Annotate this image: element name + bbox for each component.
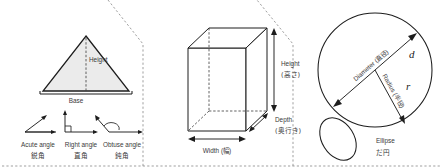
geometry-terms-figure: Height Base Acute angle 鋭角 Right angle 直… [0, 0, 444, 168]
radius-symbol: r [406, 80, 411, 92]
cuboid-depth-label-en: Depth [275, 116, 292, 124]
cuboid-figure [188, 28, 267, 131]
cuboid-width-dimension [188, 136, 246, 142]
right-angle-label-en: Right angle [65, 141, 98, 149]
triangle-figure [40, 36, 132, 94]
acute-angle-icon [25, 115, 56, 134]
cuboid-width-label: Width (幅) [203, 146, 231, 155]
diameter-symbol: d [409, 48, 415, 60]
obtuse-angle-label-en: Obtuse angle [103, 141, 141, 149]
ellipse-figure [312, 111, 364, 167]
right-angle-icon [63, 110, 98, 134]
ellipse-label-en: Ellipse [376, 137, 395, 145]
obtuse-angle-icon [95, 115, 143, 134]
acute-angle-label-jp: 鋭角 [31, 151, 45, 160]
cuboid-height-label-en: Height [281, 60, 300, 68]
triangle-height-label: Height [89, 56, 108, 64]
cuboid-depth-label-jp: (奥行き) [275, 126, 301, 135]
cuboid-height-label-jp: (高さ) [281, 70, 300, 79]
acute-angle-label-en: Acute angle [21, 141, 55, 149]
ellipse-label-jp: だ円 [376, 149, 390, 157]
obtuse-angle-label-jp: 鈍角 [115, 151, 129, 160]
triangle-base-label: Base [69, 97, 84, 104]
cuboid-height-dimension [271, 28, 277, 112]
right-angle-label-jp: 直角 [74, 151, 88, 160]
